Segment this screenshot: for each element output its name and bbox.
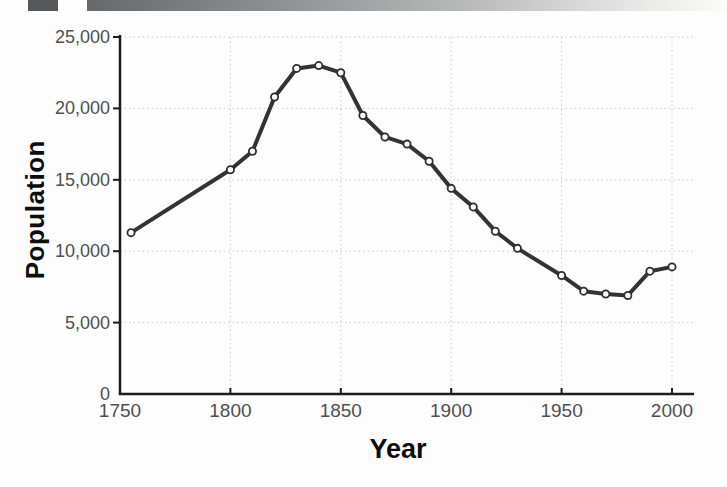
data-point-marker	[403, 141, 410, 148]
data-point-marker	[514, 245, 521, 252]
population-line-chart: 05,00010,00015,00020,00025,0001750180018…	[0, 0, 727, 487]
data-point-marker	[127, 229, 134, 236]
data-point-marker	[227, 166, 234, 173]
x-tick-label: 1750	[99, 400, 141, 421]
x-tick-label: 1800	[209, 400, 251, 421]
data-point-marker	[381, 133, 388, 140]
population-chart-canvas: 05,00010,00015,00020,00025,0001750180018…	[0, 0, 727, 487]
y-tick-label: 5,000	[65, 313, 110, 333]
y-tick-label: 25,000	[55, 27, 110, 47]
data-point-marker	[249, 148, 256, 155]
data-point-marker	[624, 292, 631, 299]
x-tick-label: 1850	[320, 400, 362, 421]
data-point-marker	[602, 290, 609, 297]
y-tick-label: 20,000	[55, 98, 110, 118]
data-point-marker	[271, 93, 278, 100]
x-tick-label: 2000	[651, 400, 693, 421]
data-point-marker	[492, 228, 499, 235]
x-tick-label: 1900	[430, 400, 472, 421]
y-tick-label: 15,000	[55, 170, 110, 190]
data-point-marker	[646, 268, 653, 275]
x-axis-title: Year	[369, 434, 426, 465]
data-point-marker	[448, 185, 455, 192]
data-point-marker	[668, 263, 675, 270]
population-series-line	[131, 66, 672, 296]
data-point-marker	[426, 158, 433, 165]
data-point-marker	[580, 288, 587, 295]
y-axis-title: Population	[20, 140, 51, 279]
x-tick-label: 1950	[540, 400, 582, 421]
data-point-marker	[558, 272, 565, 279]
data-point-marker	[315, 62, 322, 69]
data-point-marker	[359, 112, 366, 119]
y-tick-label: 10,000	[55, 241, 110, 261]
scanned-page: 05,00010,00015,00020,00025,0001750180018…	[0, 0, 727, 487]
axis-line	[120, 35, 694, 394]
data-point-marker	[337, 69, 344, 76]
data-point-marker	[293, 65, 300, 72]
data-point-marker	[470, 203, 477, 210]
